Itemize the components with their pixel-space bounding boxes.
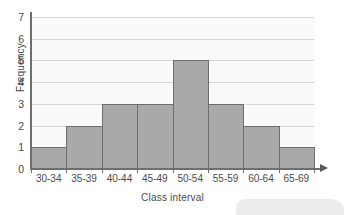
bar (137, 104, 173, 169)
bar (102, 104, 138, 169)
x-axis-tick-labels: 30-3435-3940-4445-4950-5455-5960-6465-69 (31, 173, 314, 184)
bar (243, 126, 279, 169)
x-axis-tick-label: 65-69 (279, 173, 314, 184)
y-axis-tick-label: 3 (12, 99, 24, 110)
x-axis-tick-label: 45-49 (137, 173, 172, 184)
x-axis-tick-label: 50-54 (173, 173, 208, 184)
y-axis-tick-label: 4 (12, 77, 24, 88)
y-axis-line (30, 12, 32, 170)
y-axis-tick-label: 0 (12, 164, 24, 175)
plot-area (31, 17, 314, 169)
x-axis-tick-mark (314, 169, 315, 173)
x-axis-tick-label: 30-34 (31, 173, 66, 184)
x-axis-tick-label: 35-39 (66, 173, 101, 184)
bar (66, 126, 102, 169)
x-axis-tick-label: 60-64 (243, 173, 278, 184)
y-axis-tick-label: 6 (12, 33, 24, 44)
x-axis-tick-label: 40-44 (102, 173, 137, 184)
bar-series (31, 17, 314, 169)
bar (31, 147, 67, 169)
y-axis-tick-label: 7 (12, 12, 24, 23)
y-axis-tick-label: 1 (12, 142, 24, 153)
bar (208, 104, 244, 169)
y-axis-tick-label: 2 (12, 120, 24, 131)
x-axis-tick-label: 55-59 (208, 173, 243, 184)
y-axis-tick-label: 5 (12, 55, 24, 66)
y-axis-tick-labels: 01234567 (10, 0, 24, 215)
histogram-figure: Frequency 01234567 30-3435-3940-4445-495… (0, 0, 344, 215)
bar (279, 147, 315, 169)
bar (173, 60, 209, 169)
x-axis-title: Class interval (31, 192, 314, 203)
arrow-right-icon (320, 164, 328, 172)
